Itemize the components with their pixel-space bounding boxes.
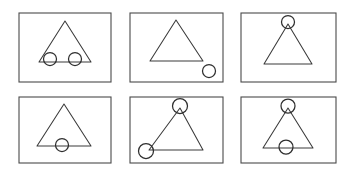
circle-apex	[282, 16, 295, 29]
circle-base-center	[279, 140, 293, 154]
panel-5	[130, 97, 223, 163]
circle-base-center	[56, 139, 69, 152]
panel-2	[130, 13, 223, 82]
triangle-shape	[263, 108, 313, 148]
panel-frame	[19, 97, 111, 163]
circle-base-left	[44, 53, 57, 66]
circle-apex	[281, 99, 295, 113]
circle-bottom-left-vertex	[139, 144, 154, 159]
figure-root	[0, 0, 353, 170]
triangle-shape	[150, 20, 203, 61]
triangle-shape	[39, 21, 91, 62]
panel-3	[241, 13, 336, 82]
panel-6	[241, 97, 336, 163]
panel-grid	[0, 0, 353, 170]
triangle-shape	[37, 104, 91, 146]
triangle-shape	[149, 108, 203, 150]
circle-apex	[173, 99, 188, 114]
panel-1	[19, 13, 111, 82]
panel-frame	[241, 13, 336, 82]
panel-frame	[130, 13, 223, 82]
circle-outside-bottom-right	[203, 65, 216, 78]
panel-frame	[130, 97, 223, 163]
panel-4	[19, 97, 111, 163]
circle-base-right	[69, 53, 82, 66]
triangle-shape	[264, 24, 312, 64]
panel-frame	[19, 13, 111, 82]
